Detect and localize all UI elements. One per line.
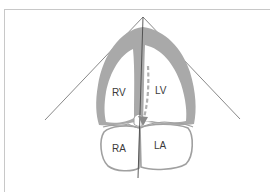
label-rv: RV [112, 88, 126, 98]
label-lv: LV [155, 86, 167, 96]
heart-diagram-svg [0, 0, 270, 192]
label-ra: RA [112, 144, 126, 154]
label-la: LA [154, 141, 166, 151]
apical-four-chamber-diagram: RV LV RA LA [0, 0, 270, 192]
